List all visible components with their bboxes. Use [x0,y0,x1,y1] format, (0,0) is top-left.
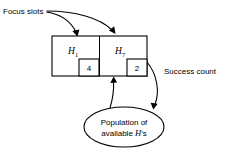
success-count-label: Success count [164,67,217,76]
population-ellipse [84,107,164,147]
diagram-canvas: Focus slots Success count H1 H7 4 2 Popu… [0,0,234,157]
population-feed-arrow-head [110,77,117,84]
slot-2-count-value: 2 [135,64,140,73]
focus-slots-label: Focus slots [3,7,43,16]
slot-1-subscript: 1 [75,51,78,58]
diagram-figure: Focus slots Success count H1 H7 4 2 Popu… [0,0,234,157]
population-label-line-1: Population of [101,118,148,127]
success-count-arrow-line [147,62,157,104]
focus-slots-arrow-1-line [47,12,77,32]
success-count-arrow-head [151,103,158,110]
population-label-line-2: available H's [101,128,146,138]
population-label-suffix: 's [141,129,147,138]
slot-1-count-value: 4 [87,64,92,73]
focus-slots-arrow-2-line [47,11,113,30]
population-feed-arrow-line [110,82,114,108]
population-label-prefix: available [101,129,135,138]
